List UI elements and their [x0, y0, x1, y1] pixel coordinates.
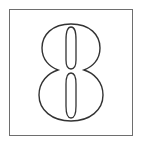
digit-eight-outline-icon	[0, 0, 143, 147]
